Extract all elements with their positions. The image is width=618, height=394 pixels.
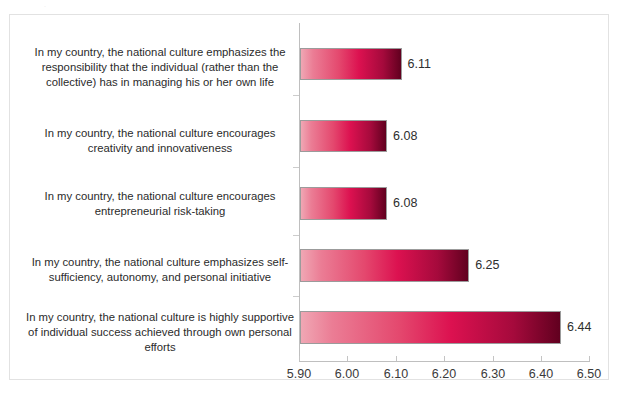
chart-page: . In my country, the national culture em… bbox=[0, 0, 618, 394]
category-label: In my country, the national culture emph… bbox=[24, 255, 296, 285]
y-axis-tick bbox=[293, 167, 299, 168]
x-axis-tick bbox=[444, 356, 445, 361]
x-axis-tick bbox=[396, 356, 397, 361]
bar[interactable] bbox=[300, 48, 402, 80]
bar-value-label: 6.25 bbox=[475, 258, 499, 272]
bar[interactable] bbox=[300, 311, 561, 344]
chart-frame: In my country, the national culture emph… bbox=[9, 14, 609, 380]
bar[interactable] bbox=[300, 187, 387, 220]
x-axis-tick bbox=[493, 356, 494, 361]
x-axis-tick bbox=[347, 356, 348, 361]
category-label: In my country, the national culture enco… bbox=[24, 126, 296, 156]
bar[interactable] bbox=[300, 249, 469, 282]
category-label: In my country, the national culture is h… bbox=[24, 310, 296, 355]
x-axis-tick bbox=[589, 356, 590, 361]
y-axis-tick bbox=[293, 296, 299, 297]
bar-value-label: 6.44 bbox=[567, 320, 591, 334]
y-axis-tick bbox=[293, 95, 299, 96]
x-axis-tick bbox=[299, 356, 300, 361]
bar-value-label: 6.08 bbox=[393, 129, 417, 143]
bar-value-label: 6.11 bbox=[408, 57, 431, 71]
category-label: In my country, the national culture enco… bbox=[24, 189, 296, 219]
x-axis-line bbox=[299, 361, 590, 362]
x-axis-tick-label: 6.50 bbox=[559, 367, 618, 381]
y-axis-tick bbox=[293, 235, 299, 236]
x-axis-tick bbox=[541, 356, 542, 361]
plot-area: In my country, the national culture emph… bbox=[10, 15, 608, 379]
page-top-artifact: . bbox=[44, 1, 164, 8]
category-label: In my country, the national culture emph… bbox=[24, 45, 296, 90]
bar-value-label: 6.08 bbox=[393, 196, 417, 210]
bar[interactable] bbox=[300, 120, 387, 152]
